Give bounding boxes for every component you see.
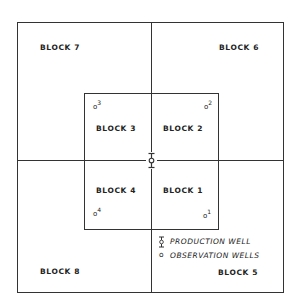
legend-observation-wells-label: OBSERVATION WELLS (170, 251, 259, 260)
well-number: 4 (97, 206, 101, 213)
well-number: 2 (208, 99, 212, 106)
block-4-label: BLOCK 4 (96, 186, 136, 195)
production-well-icon (146, 152, 157, 169)
legend: PRODUCTION WELL o OBSERVATION WELLS (158, 236, 288, 266)
block-1-label: BLOCK 1 (163, 186, 203, 195)
block-8-label: BLOCK 8 (40, 267, 80, 276)
block-3-label: BLOCK 3 (96, 124, 136, 133)
block-5-label: BLOCK 5 (218, 268, 258, 277)
block-7-label: BLOCK 7 (40, 43, 80, 52)
legend-production-well-icon (158, 236, 165, 248)
observation-well-2: o2 (204, 101, 212, 111)
well-number: 3 (97, 99, 101, 106)
block-6-label: BLOCK 6 (219, 43, 259, 52)
observation-well-1: o1 (203, 210, 211, 220)
legend-observation-well-icon: o (159, 250, 164, 259)
well-number: 1 (207, 208, 211, 215)
block-2-label: BLOCK 2 (163, 124, 203, 133)
observation-well-4: o4 (93, 208, 101, 218)
legend-production-well-label: PRODUCTION WELL (170, 237, 251, 246)
observation-well-3: o3 (93, 101, 101, 111)
well-layout-diagram: BLOCK 7 BLOCK 6 BLOCK 3 BLOCK 2 BLOCK 4 … (0, 0, 300, 306)
